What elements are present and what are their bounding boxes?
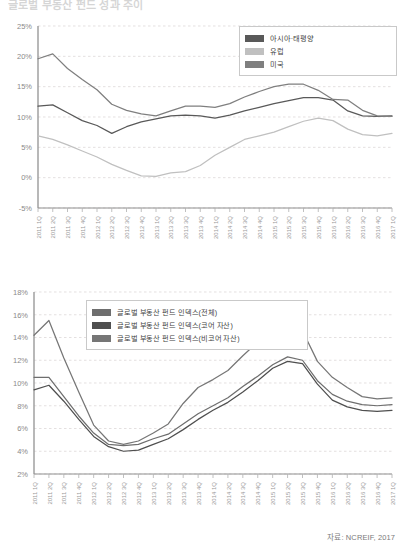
- x-axis-tick-label: 2011 3Q: [65, 216, 71, 239]
- x-axis-tick-label: 2012 3Q: [124, 216, 130, 239]
- x-axis-tick-label: 2012 1Q: [95, 216, 101, 239]
- legend-label: 미국: [270, 59, 284, 69]
- x-axis-tick-label: 2015 1Q: [270, 482, 276, 505]
- x-axis-tick-label: 2013 2Q: [166, 482, 172, 505]
- y-axis-tick-label: 0%: [21, 173, 32, 182]
- legend-top: 아시아·태평양 유럽 미국: [239, 26, 397, 76]
- x-axis-tick-label: 2017 1Q: [390, 216, 396, 239]
- x-axis-tick-label: 2016 1Q: [331, 216, 337, 239]
- x-axis-tick-label: 2015 4Q: [316, 216, 322, 239]
- legend-bottom: 글로벌 부동산 펀드 인덱스(전체) 글로벌 부동산 펀드 인덱스(코어 자산)…: [86, 300, 308, 350]
- x-axis-tick-label: 2012 2Q: [109, 216, 115, 239]
- legend-swatch-icon: [92, 335, 111, 342]
- legend-item: 글로벌 부동산 펀드 인덱스(비코어 자산): [92, 332, 300, 344]
- x-axis-tick-label: 2012 4Q: [136, 482, 142, 505]
- legend-item: 유럽: [245, 45, 389, 57]
- figure-page: 글로벌 부동산 펀드 성과 추이 -5%0%5%10%15%20%25%2011…: [0, 0, 405, 551]
- x-axis-tick-label: 2014 2Q: [226, 482, 232, 505]
- legend-swatch-icon: [245, 48, 264, 55]
- x-axis-tick-label: 2012 1Q: [91, 482, 97, 505]
- y-axis-tick-label: -5%: [19, 204, 33, 213]
- legend-label: 글로벌 부동산 펀드 인덱스(전체): [117, 307, 217, 317]
- x-axis-tick-label: 2014 2Q: [227, 216, 233, 239]
- legend-swatch-icon: [92, 322, 111, 329]
- legend-item: 미국: [245, 58, 389, 70]
- x-axis-tick-label: 2014 4Q: [255, 482, 261, 505]
- x-axis-tick-label: 2016 3Q: [360, 482, 366, 505]
- page-title: 글로벌 부동산 펀드 성과 추이: [8, 0, 308, 12]
- x-axis-tick-label: 2017 1Q: [390, 482, 396, 505]
- y-axis-tick-label: 16%: [13, 311, 28, 320]
- y-axis-tick-label: 12%: [13, 356, 28, 365]
- x-axis-tick-label: 2013 1Q: [151, 482, 157, 505]
- x-axis-tick-label: 2016 2Q: [345, 482, 351, 505]
- legend-item: 글로벌 부동산 펀드 인덱스(코어 자산): [92, 319, 300, 331]
- x-axis-tick-label: 2016 4Q: [375, 216, 381, 239]
- x-axis-tick-label: 2014 3Q: [240, 482, 246, 505]
- legend-swatch-icon: [245, 61, 264, 68]
- x-axis-tick-label: 2011 4Q: [80, 216, 86, 239]
- legend-label: 글로벌 부동산 펀드 인덱스(비코어 자산): [117, 333, 240, 343]
- x-axis-tick-label: 2011 2Q: [47, 482, 53, 505]
- legend-item: 글로벌 부동산 펀드 인덱스(전체): [92, 306, 300, 318]
- x-axis-tick-label: 2013 4Q: [198, 216, 204, 239]
- source-note: 자료: NCREIF, 2017: [327, 531, 395, 542]
- x-axis-tick-label: 2016 2Q: [345, 216, 351, 239]
- legend-swatch-icon: [92, 309, 111, 316]
- x-axis-tick-label: 2013 3Q: [181, 482, 187, 505]
- chart-regional-returns: -5%0%5%10%15%20%25%2011 1Q2011 2Q2011 3Q…: [0, 12, 405, 262]
- y-axis-tick-label: 5%: [21, 143, 32, 152]
- legend-swatch-icon: [245, 35, 264, 42]
- y-axis-tick-label: 6%: [17, 424, 28, 433]
- x-axis-tick-label: 2012 3Q: [121, 482, 127, 505]
- x-axis-tick-label: 2016 1Q: [330, 482, 336, 505]
- x-axis-tick-label: 2011 4Q: [76, 482, 82, 505]
- data-series-line: [38, 98, 392, 134]
- y-axis-tick-label: 4%: [17, 447, 28, 456]
- legend-item: 아시아·태평양: [245, 32, 389, 44]
- legend-label: 글로벌 부동산 펀드 인덱스(코어 자산): [117, 320, 233, 330]
- x-axis-tick-label: 2011 3Q: [61, 482, 67, 505]
- y-axis-tick-label: 8%: [17, 402, 28, 411]
- y-axis-tick-label: 18%: [13, 288, 28, 297]
- x-axis-tick-label: 2011 1Q: [36, 216, 42, 239]
- y-axis-tick-label: 25%: [17, 22, 32, 31]
- x-axis-tick-label: 2014 4Q: [257, 216, 263, 239]
- x-axis-tick-label: 2016 4Q: [375, 482, 381, 505]
- data-series-line: [34, 357, 392, 446]
- legend-label: 유럽: [270, 46, 284, 56]
- y-axis-tick-label: 2%: [17, 470, 28, 479]
- x-axis-tick-label: 2011 1Q: [32, 482, 38, 505]
- y-axis-tick-label: 15%: [17, 82, 32, 91]
- x-axis-tick-label: 2012 2Q: [106, 482, 112, 505]
- x-axis-tick-label: 2013 4Q: [196, 482, 202, 505]
- x-axis-tick-label: 2014 1Q: [211, 482, 217, 505]
- x-axis-tick-label: 2013 1Q: [154, 216, 160, 239]
- y-axis-tick-label: 10%: [17, 113, 32, 122]
- x-axis-tick-label: 2015 2Q: [286, 216, 292, 239]
- y-axis-tick-label: 14%: [13, 333, 28, 342]
- chart-fund-index-returns: 2%4%6%8%10%12%14%16%18%2011 1Q2011 2Q201…: [0, 282, 405, 532]
- y-axis-tick-label: 10%: [13, 379, 28, 388]
- x-axis-tick-label: 2015 3Q: [301, 216, 307, 239]
- x-axis-tick-label: 2013 2Q: [168, 216, 174, 239]
- x-axis-tick-label: 2015 2Q: [285, 482, 291, 505]
- x-axis-tick-label: 2015 3Q: [300, 482, 306, 505]
- x-axis-tick-label: 2016 3Q: [360, 216, 366, 239]
- x-axis-tick-label: 2014 1Q: [213, 216, 219, 239]
- x-axis-tick-label: 2012 4Q: [139, 216, 145, 239]
- y-axis-tick-label: 20%: [17, 52, 32, 61]
- x-axis-tick-label: 2015 1Q: [272, 216, 278, 239]
- x-axis-tick-label: 2011 2Q: [50, 216, 56, 239]
- x-axis-tick-label: 2013 3Q: [183, 216, 189, 239]
- x-axis-tick-label: 2014 3Q: [242, 216, 248, 239]
- legend-label: 아시아·태평양: [270, 33, 314, 43]
- x-axis-tick-label: 2015 4Q: [315, 482, 321, 505]
